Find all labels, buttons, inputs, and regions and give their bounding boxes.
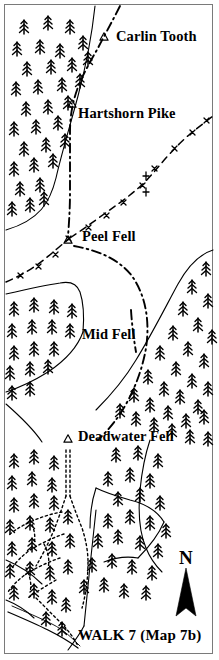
map-container: Carlin Tooth Hartshorn Pike Peel Fell Mi… [0,0,219,660]
peak-label-deadwater-fell: Deadwater Fell [78,429,174,444]
peak-label-peel-fell: Peel Fell [82,229,136,244]
peak-label-carlin-tooth: Carlin Tooth [116,29,197,44]
conifer-trees-left-mid [6,298,77,400]
conifer-trees-lower-right [62,446,171,612]
conifer-trees-right [116,262,217,446]
map-title: WALK 7 (Map 7b) [78,628,201,643]
north-arrow-letter: N [179,548,193,567]
peak-label-mid-fell: Mid Fell [82,327,136,342]
walk-route-dash-dot [68,6,147,440]
trig-point-deadwater-fell [64,435,72,442]
peak-label-hartshorn-pike: Hartshorn Pike [78,106,176,121]
north-arrow-glyph [176,568,196,616]
